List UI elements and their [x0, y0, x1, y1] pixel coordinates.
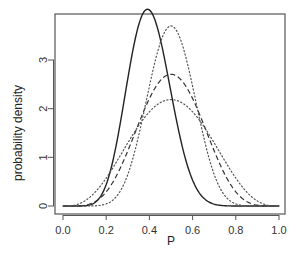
- x-tick-label: 0.2: [99, 224, 114, 236]
- x-tick-label: 1.0: [271, 224, 286, 236]
- x-tick-label: 0.6: [185, 224, 200, 236]
- plot-frame: [55, 14, 285, 214]
- curve-dotted-wide: [63, 100, 279, 206]
- y-tick-label: 2: [37, 106, 49, 112]
- density-chart: 0.00.20.40.60.81.0 0123 P probability de…: [0, 0, 303, 259]
- y-tick-label: 0: [37, 203, 49, 209]
- curve-dotted-narrow: [63, 26, 279, 206]
- y-tick-label: 3: [37, 57, 49, 63]
- x-axis-label: P: [167, 234, 175, 248]
- y-axis: 0123: [37, 57, 54, 209]
- y-axis-label: probability density: [11, 85, 25, 181]
- x-tick-label: 0.0: [55, 224, 70, 236]
- x-tick-label: 0.8: [228, 224, 243, 236]
- x-axis: 0.00.20.40.60.81.0: [55, 215, 286, 236]
- y-tick-label: 1: [37, 154, 49, 160]
- x-tick-label: 0.4: [142, 224, 157, 236]
- density-curves: [63, 9, 279, 206]
- curve-solid: [63, 9, 279, 206]
